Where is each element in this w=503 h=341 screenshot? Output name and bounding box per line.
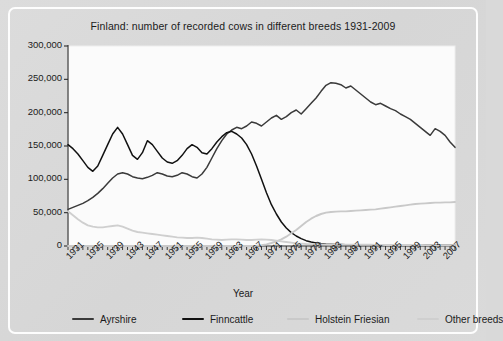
y-axis-tick-label: 100,000 [0,172,62,183]
legend-label: Holstein Friesian [315,314,389,325]
legend-label: Ayrshire [100,314,137,325]
y-axis-tick-label: 0 [0,239,62,250]
legend-item-holstein-friesian[interactable]: Holstein Friesian [287,314,389,325]
legend-item-ayrshire[interactable]: Ayrshire [72,314,137,325]
legend-swatch-icon [287,318,309,320]
legend-swatch-icon [182,318,204,320]
y-axis-tick-label: 250,000 [0,72,62,83]
y-axis-tick-label: 300,000 [0,39,62,50]
series-line-ayrshire [68,83,455,210]
axes-group [64,45,455,250]
legend-swatch-icon [72,318,94,320]
y-axis-tick-label: 50,000 [0,206,62,217]
legend-item-finncattle[interactable]: Finncattle [182,314,253,325]
legend-label: Other breeds [445,314,503,325]
y-axis-tick-label: 150,000 [0,139,62,150]
plot-frame-border [68,46,455,246]
y-axis-tick-label: 200,000 [0,106,62,117]
legend-swatch-icon [417,318,439,320]
legend-item-other-breeds[interactable]: Other breeds [417,314,503,325]
x-axis-title: Year [0,288,486,299]
series-group [68,83,455,246]
legend-label: Finncattle [210,314,253,325]
chart-legend: AyrshireFinncattleHolstein FriesianOther… [72,309,472,329]
